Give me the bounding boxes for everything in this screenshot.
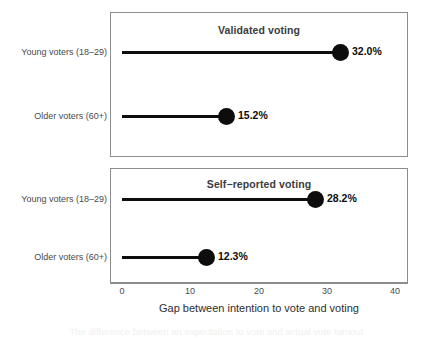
category-label-selfreported-young: Young voters (18–29) (21, 194, 107, 204)
x-tick-label-40: 40 (390, 286, 400, 296)
marker-selfreported-young[interactable] (307, 191, 324, 208)
panel-self-reported-voting: Self−reported voting (110, 168, 408, 283)
marker-selfreported-older[interactable] (198, 249, 215, 266)
x-axis-title: Gap between intention to vote and voting (110, 302, 408, 314)
category-label-validated-older: Older voters (60+) (34, 111, 107, 121)
stem-validated-older (122, 115, 226, 118)
category-label-validated-young: Young voters (18–29) (21, 47, 107, 57)
marker-validated-young[interactable] (332, 44, 349, 61)
panel-title-validated: Validated voting (111, 24, 407, 36)
x-axis-line (110, 283, 408, 284)
value-label-validated-older: 15.2% (238, 109, 268, 121)
panel-validated-voting: Validated voting (110, 12, 408, 157)
x-tick-label-0: 0 (119, 286, 124, 296)
value-label-validated-young: 32.0% (352, 45, 382, 57)
stem-validated-young (122, 51, 340, 54)
value-label-selfreported-older: 12.3% (218, 250, 248, 262)
x-tick-label-30: 30 (322, 286, 332, 296)
stem-selfreported-older (122, 256, 206, 259)
stem-selfreported-young (122, 198, 315, 201)
panel-title-self-reported: Self−reported voting (111, 178, 407, 190)
scan-bleed-through-text: The difference between an expectation to… (0, 326, 433, 337)
x-tick-label-20: 20 (254, 286, 264, 296)
value-label-selfreported-young: 28.2% (327, 192, 357, 204)
category-label-selfreported-older: Older voters (60+) (34, 252, 107, 262)
x-tick-label-10: 10 (185, 286, 195, 296)
marker-validated-older[interactable] (218, 108, 235, 125)
lollipop-chart-figure: Validated voting 32.0% Young voters (18–… (0, 0, 433, 338)
